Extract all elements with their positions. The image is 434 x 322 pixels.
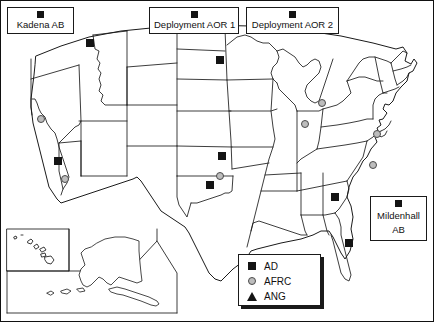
legend-row-ang: ANG (245, 289, 320, 303)
marker-afrc-california-central (37, 115, 45, 123)
marker-ad-north-dakota (216, 56, 224, 64)
marker-afrc-california-south (61, 175, 69, 183)
callout-deployment-aor-2: Deployment AOR 2 (246, 7, 339, 34)
marker-ad-california (54, 157, 62, 165)
legend: AD AFRC ANG (238, 254, 321, 306)
legend-box: AD AFRC ANG (238, 254, 321, 306)
marker-afrc-michigan (318, 99, 326, 107)
legend-triangle-icon (245, 292, 258, 301)
callout-label-kadena: Kadena AB (12, 20, 69, 31)
legend-label-ang: ANG (264, 291, 286, 302)
callout-label-mildenhall-line1: Mildenhall (375, 209, 422, 223)
callout-label-aor1: Deployment AOR 1 (154, 20, 234, 31)
callout-mildenhall-ab: Mildenhall AB (370, 196, 427, 241)
callout-marker-ad-kadena (37, 11, 44, 18)
legend-square-icon (245, 262, 258, 270)
legend-label-afrc: AFRC (264, 276, 291, 287)
marker-afrc-indiana (301, 120, 309, 128)
callout-marker-ad-aor1 (191, 11, 198, 18)
legend-row-ad: AD (245, 259, 320, 273)
map-figure: Kadena AB Deployment AOR 1 Deployment AO… (0, 0, 434, 322)
marker-ad-florida (345, 239, 353, 247)
callout-label-aor2: Deployment AOR 2 (251, 20, 334, 31)
marker-afrc-north-carolina (369, 161, 377, 169)
marker-ad-washington (86, 39, 94, 47)
callout-deployment-aor-1: Deployment AOR 1 (149, 7, 239, 34)
marker-ad-oklahoma (206, 181, 214, 189)
legend-row-afrc: AFRC (245, 274, 320, 288)
callout-marker-ad-mildenhall (395, 200, 402, 207)
legend-label-ad: AD (264, 261, 278, 272)
marker-afrc-oklahoma (216, 172, 224, 180)
marker-ad-kansas (218, 152, 226, 160)
legend-circle-icon (245, 277, 258, 285)
callout-kadena-ab: Kadena AB (7, 7, 74, 34)
marker-afrc-maryland (373, 130, 381, 138)
marker-ad-georgia (331, 193, 339, 201)
callout-marker-ad-aor2 (289, 11, 296, 18)
callout-label-mildenhall-line2: AB (375, 223, 422, 237)
